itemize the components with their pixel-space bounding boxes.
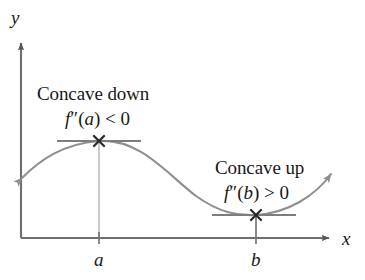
formula-b-var: b — [244, 182, 254, 203]
concave-up-heading: Concave up — [215, 158, 304, 177]
formula-a-relation: < 0 — [100, 108, 130, 129]
tick-label-b: b — [251, 250, 261, 269]
figure-canvas — [0, 0, 365, 280]
concave-down-formula: f″(a) < 0 — [65, 109, 130, 128]
concavity-figure: y x Concave down f″(a) < 0 Concave up f″… — [0, 0, 365, 280]
concave-up-formula: f″(b) > 0 — [224, 183, 289, 202]
tick-label-a: a — [94, 250, 104, 269]
x-axis-label: x — [342, 229, 350, 248]
formula-a-primes: ″ — [70, 108, 78, 129]
formula-a-var: a — [85, 108, 95, 129]
formula-b-primes: ″ — [229, 182, 237, 203]
concave-down-heading: Concave down — [37, 84, 149, 103]
formula-b-relation: > 0 — [259, 182, 289, 203]
y-axis-label: y — [11, 8, 19, 27]
